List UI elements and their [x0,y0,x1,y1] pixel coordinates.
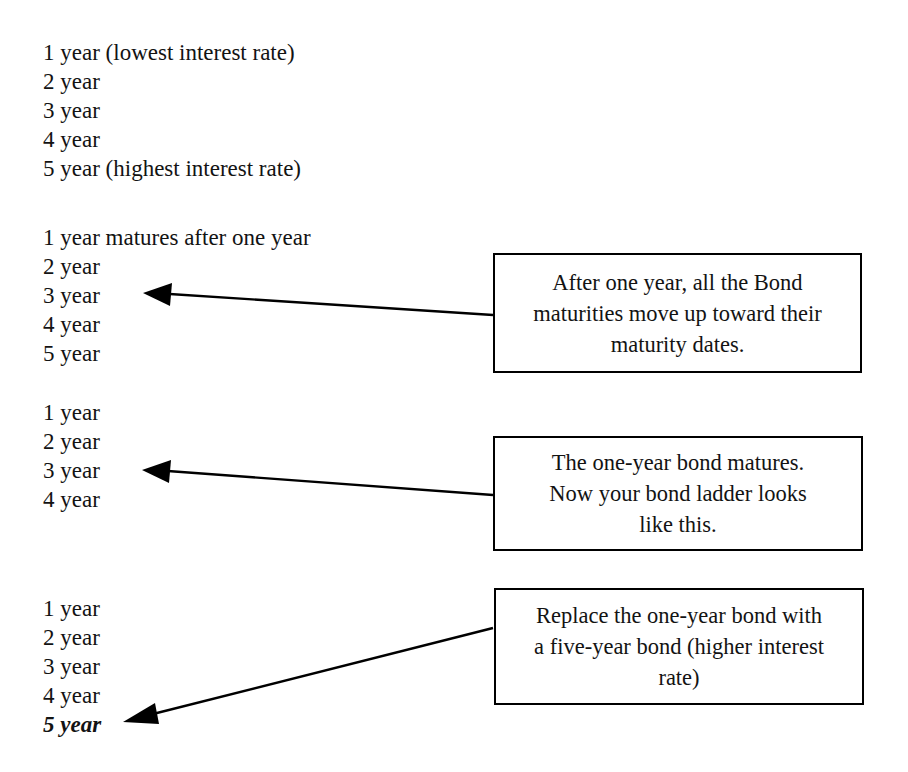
ladder-rung: 4 year [43,681,101,710]
callout-line: Replace the one-year bond with [536,603,822,628]
ladder-rung: 5 year [43,339,311,368]
ladder-rung: 3 year [43,281,311,310]
callout-line: After one year, all the Bond [552,270,802,295]
ladder-rung: 3 year [43,456,100,485]
ladder-after-one-year: 1 year matures after one year 2 year 3 y… [43,223,311,368]
callout-bond-matures: The one-year bond matures. Now your bond… [493,436,863,551]
ladder-rung: 2 year [43,67,301,96]
ladder-rung: 3 year [43,96,301,125]
callout-replace-bond: Replace the one-year bond with a five-ye… [494,588,864,705]
ladder-rung: 1 year [43,398,100,427]
callout-line: a five-year bond (higher interest [534,634,824,659]
callout-line: Now your bond ladder looks [549,481,806,506]
ladder-rung: 4 year [43,125,301,154]
ladder-rung: 2 year [43,252,311,281]
ladder-rung: 1 year matures after one year [43,223,311,252]
ladder-rung: 4 year [43,310,311,339]
arrow-to-third-ladder [142,460,493,495]
ladder-rung-emphasis: 5 year [43,710,101,739]
callout-line: The one-year bond matures. [552,450,804,475]
callout-text: The one-year bond matures. Now your bond… [505,447,851,540]
callout-line: like this. [639,512,717,537]
callout-text: After one year, all the Bond maturities … [505,267,850,360]
callout-line: rate) [658,665,699,690]
diagram-canvas: 1 year (lowest interest rate) 2 year 3 y… [0,0,908,772]
ladder-rung: 5 year (highest interest rate) [43,154,301,183]
ladder-rung: 1 year (lowest interest rate) [43,38,301,67]
ladder-initial: 1 year (lowest interest rate) 2 year 3 y… [43,38,301,183]
ladder-rung: 2 year [43,623,101,652]
ladder-rung: 2 year [43,427,100,456]
ladder-rung: 3 year [43,652,101,681]
callout-line: maturity dates. [611,332,745,357]
arrow-to-fourth-ladder [123,628,493,724]
ladder-after-maturity: 1 year 2 year 3 year 4 year [43,398,100,514]
ladder-rung: 1 year [43,594,101,623]
callout-line: maturities move up toward their [533,301,822,326]
callout-maturities-move-up: After one year, all the Bond maturities … [493,253,862,373]
ladder-replaced: 1 year 2 year 3 year 4 year 5 year [43,594,101,739]
ladder-rung: 4 year [43,485,100,514]
callout-text: Replace the one-year bond with a five-ye… [506,600,852,693]
